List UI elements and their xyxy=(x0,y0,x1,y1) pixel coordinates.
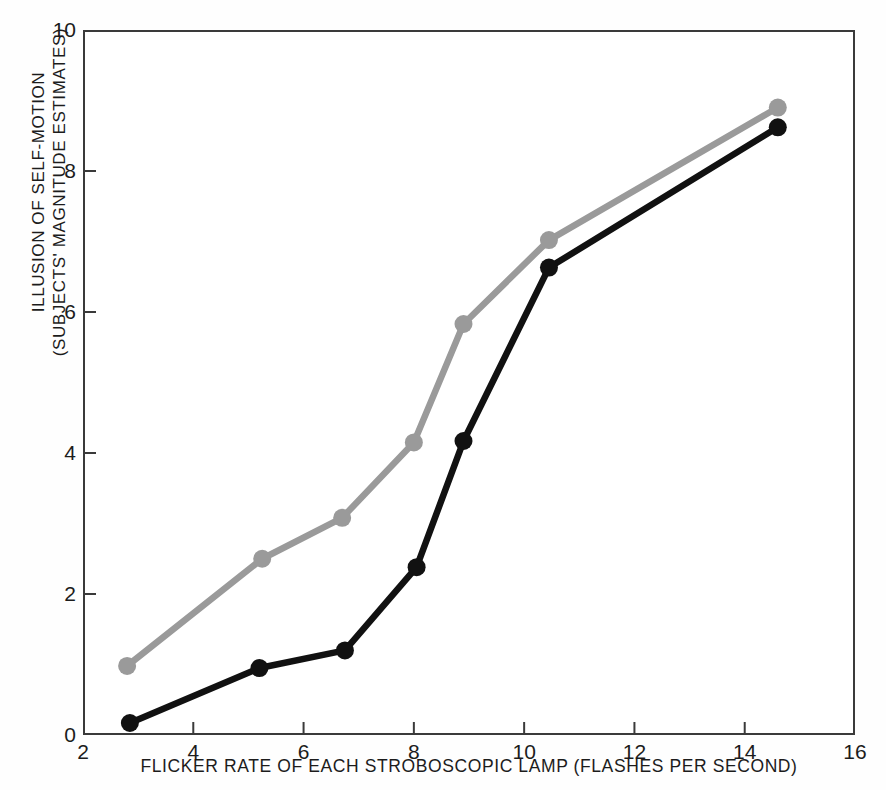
x-axis-title: FLICKER RATE OF EACH STROBOSCOPIC LAMP (… xyxy=(83,756,855,777)
y-axis-title-line-1: ILLUSION OF SELF-MOTION xyxy=(29,72,50,313)
y-tick-label: 0 xyxy=(50,723,76,747)
y-axis-title: ILLUSION OF SELF-MOTION (SUBJECTS' MAGNI… xyxy=(28,0,72,542)
plot-area-frame xyxy=(83,30,855,735)
y-axis-title-line-2: (SUBJECTS' MAGNITUDE ESTIMATES) xyxy=(50,28,71,357)
y-tick-label: 2 xyxy=(50,582,76,606)
chart-figure: 246810121416 0246810 FLICKER RATE OF EAC… xyxy=(0,0,886,790)
